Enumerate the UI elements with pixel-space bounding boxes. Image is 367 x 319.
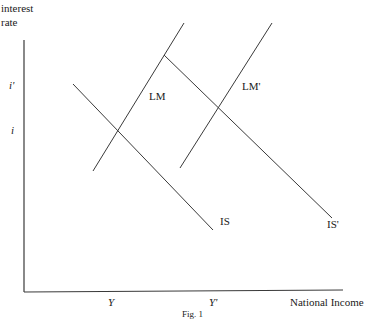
x-axis [24,290,343,292]
lm-label: LM [149,91,166,102]
figure-caption: Fig. 1 [182,310,203,319]
y-tick-i: i [11,125,14,136]
x-tick-y: Y [108,297,114,308]
lm-prime-label: LM' [242,81,260,92]
is-prime-label: IS' [327,219,339,230]
is-curve [73,84,213,230]
lm-curve [93,23,184,171]
y-tick-i-prime: i' [9,80,14,91]
y-axis-label-line2: rate [1,17,17,28]
y-axis-label-line1: interest [1,3,33,14]
is-label: IS [220,216,230,227]
x-axis-label: National Income [290,297,364,308]
x-tick-y-prime: Y' [209,297,217,308]
